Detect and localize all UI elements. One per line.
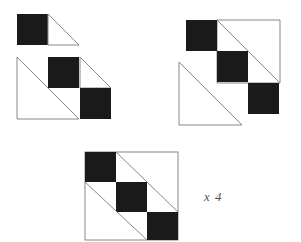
block-dark-bottom-right: [147, 212, 178, 240]
upper-chain-dark-square-2: [217, 51, 248, 82]
unit-b: [17, 57, 79, 119]
quilt-block-diagram: [0, 0, 301, 242]
block-dark-center: [116, 182, 147, 212]
lower-chain-dark-square: [248, 83, 279, 114]
block-dark-top-left: [85, 152, 116, 182]
upper-chain-dark-square-1: [186, 20, 217, 51]
unit-c-dark-square: [80, 88, 111, 119]
repeat-count-annotation: x 4: [204, 189, 223, 205]
finished-block-group: [85, 152, 178, 240]
unit-b-dark-square: [48, 57, 79, 88]
unit-a-dark-square: [17, 14, 48, 45]
